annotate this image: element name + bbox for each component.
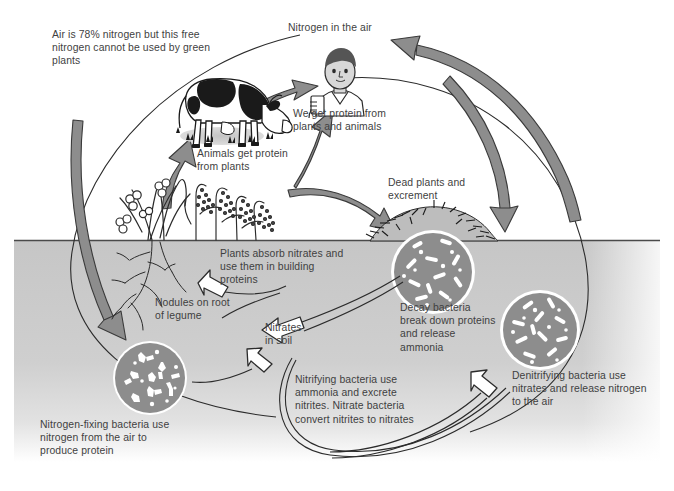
label-nodules: Nodules on root of legume (155, 296, 275, 322)
label-nitrates-in-soil: Nitrates in soil (265, 321, 335, 347)
arrow-nitrifying-to-nitrates (247, 348, 272, 372)
label-air-nitrogen-note: Air is 78% nitrogen but this free nitrog… (52, 28, 297, 68)
arrow-tail-nitrifying (192, 369, 252, 382)
label-we-get-protein: We get protein from plants and animals (293, 107, 443, 133)
arrow-tail-nitrates-to-plants (225, 286, 286, 294)
label-decay-bacteria: Decay bacteria break down proteins and r… (400, 301, 530, 354)
label-denitrifying-bacteria: Denitrifying bacteria use nitrates and r… (512, 369, 672, 409)
arrow-nitrates-to-denitrifying (471, 370, 497, 397)
nitrogen-cycle-diagram: Air is 78% nitrogen but this free nitrog… (0, 0, 674, 491)
label-nitrogen-fixing-bacteria: Nitrogen-fixing bacteria use nitrogen fr… (40, 418, 230, 458)
label-dead-plants: Dead plants and excrement (388, 176, 518, 202)
label-nitrifying-bacteria: Nitrifying bacteria use ammonia and excr… (295, 373, 460, 426)
label-animals-get-protein: Animals get protein from plants (197, 147, 337, 173)
label-plants-absorb: Plants absorb nitrates and use them in b… (220, 247, 395, 287)
label-nitrogen-in-air: Nitrogen in the air (288, 21, 448, 34)
